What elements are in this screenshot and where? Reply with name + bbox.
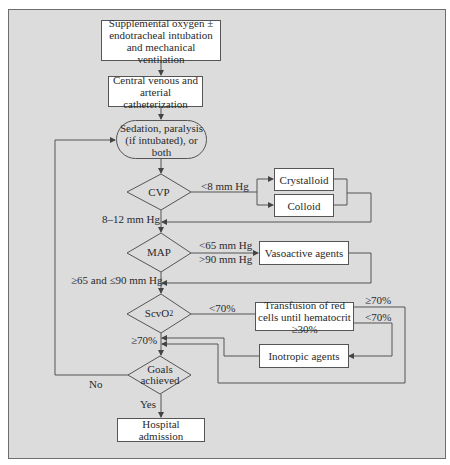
crystalloid-box: Crystalloid xyxy=(274,168,334,191)
flowchart-connectors xyxy=(0,0,450,465)
catheterization-box: Central venous and arterial catheterizat… xyxy=(108,76,203,107)
goals-no-label: No xyxy=(89,378,102,390)
scvo2-decision: ScvO2 xyxy=(127,294,191,333)
map-high-label: >90 mm Hg xyxy=(199,253,252,265)
goals-yes-label: Yes xyxy=(140,398,156,410)
scvo2-label: ScvO xyxy=(145,308,169,319)
map-low-label: <65 mm Hg xyxy=(199,239,252,251)
transfusion-box: Transfusion of red cells until hematocri… xyxy=(255,302,354,331)
map-decision: MAP xyxy=(127,233,191,272)
transfusion-low-label: <70% xyxy=(365,311,391,323)
scvo2-ok-label: ≥70% xyxy=(131,334,157,346)
transfusion-ok-label: ≥70% xyxy=(365,294,391,306)
goals-achieved-decision: Goals achieved xyxy=(136,360,184,390)
map-ok-label: ≥65 and ≤90 mm Hg xyxy=(71,274,163,286)
colloid-box: Colloid xyxy=(274,194,334,217)
sedation-node: Sedation, paralysis (if intubated), or b… xyxy=(116,120,207,159)
cvp-ok-label: 8–12 mm Hg xyxy=(102,213,160,225)
supplemental-oxygen-box: Supplemental oxygen ± endotracheal intub… xyxy=(101,20,221,61)
scvo2-subscript: 2 xyxy=(169,308,173,319)
scvo2-low-label: <70% xyxy=(209,302,235,314)
vasoactive-agents-box: Vasoactive agents xyxy=(259,241,349,265)
cvp-low-label: <8 mm Hg xyxy=(201,180,249,192)
cvp-decision: CVP xyxy=(127,174,191,210)
hospital-admission-box: Hospital admission xyxy=(117,418,205,442)
inotropic-agents-box: Inotropic agents xyxy=(259,344,349,368)
